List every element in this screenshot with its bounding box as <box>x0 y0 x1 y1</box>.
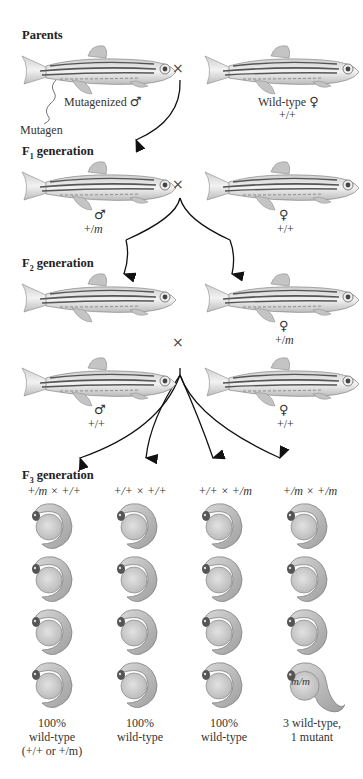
f1-female-fish <box>203 158 363 214</box>
f3-cross-1: +/m × +/+ <box>22 484 86 499</box>
mutagenized-male-fish <box>20 42 180 98</box>
male-symbol-icon: ♂ <box>130 94 142 109</box>
embryo <box>28 659 74 709</box>
embryo <box>198 553 244 603</box>
cross-symbol: × <box>172 60 184 76</box>
f3-result-1: 100% wild-type (+/+ or +/m) <box>14 716 90 758</box>
embryo <box>283 553 329 603</box>
female-symbol-icon: ♀ <box>279 318 289 333</box>
f1-male-fish <box>20 158 180 214</box>
f2-cross-male-genotype: +/+ <box>88 417 105 432</box>
embryo <box>28 500 74 550</box>
embryo <box>283 500 329 550</box>
f3-cross-4: +/m × +/m <box>278 484 342 499</box>
embryo <box>113 659 159 709</box>
mutant-embryo <box>283 659 345 721</box>
f3-result-2: 100% wild-type <box>102 716 178 744</box>
mutagen-label: Mutagen <box>20 123 63 138</box>
male-symbol-icon: ♂ <box>94 207 106 222</box>
wild-type-female-fish <box>203 42 363 98</box>
f1-cross-symbol: × <box>172 176 184 192</box>
embryo <box>198 500 244 550</box>
f3-heading: F3 generation <box>22 468 94 485</box>
embryo <box>113 500 159 550</box>
female-symbol-icon: ♀ <box>279 402 289 417</box>
embryo <box>113 553 159 603</box>
parents-heading: Parents <box>22 28 63 43</box>
mutagenized-male-label: Mutagenized ♂ <box>64 94 141 110</box>
female-symbol-icon: ♀ <box>279 207 289 222</box>
f2-male-fish <box>20 270 180 326</box>
male-symbol-icon: ♂ <box>94 402 106 417</box>
mutant-genotype: m/m <box>291 675 310 687</box>
f1-female-genotype: +/+ <box>277 222 294 237</box>
female-symbol-icon: ♀ <box>309 94 319 109</box>
f1-male-genotype: +/m <box>84 222 103 237</box>
f3-cross-3: +/+ × +/m <box>193 484 257 499</box>
f3-cross-2: +/+ × +/+ <box>108 484 172 499</box>
embryo <box>198 606 244 656</box>
female-genotype: +/+ <box>279 108 296 123</box>
f2-cross-female-genotype: +/+ <box>277 417 294 432</box>
f2-female-genotype: +/m <box>275 333 294 348</box>
embryo <box>283 606 329 656</box>
embryo <box>28 553 74 603</box>
embryo <box>113 606 159 656</box>
embryo <box>198 659 244 709</box>
f3-result-4: 3 wild-type, 1 mutant <box>272 716 352 744</box>
f2-cross-symbol: × <box>172 334 184 350</box>
embryo <box>28 606 74 656</box>
f3-result-3: 100% wild-type <box>186 716 262 744</box>
